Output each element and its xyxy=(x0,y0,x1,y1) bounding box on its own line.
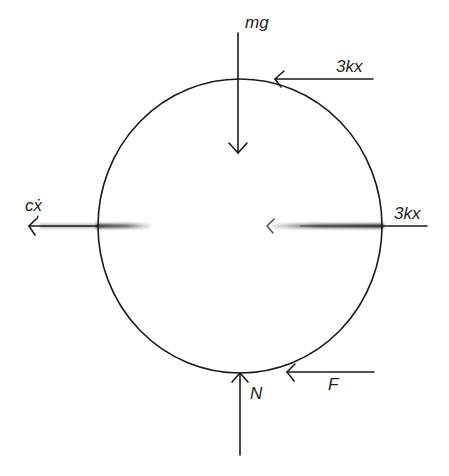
label-mg: mg xyxy=(245,14,269,31)
free-body-diagram xyxy=(0,0,449,476)
label-3kx-top: 3kx xyxy=(336,58,362,75)
label-3kx-center: 3kx xyxy=(394,205,420,222)
weight-force-arrow xyxy=(229,33,247,153)
arrowhead-left-icon xyxy=(29,219,36,235)
damping-force-arrow xyxy=(29,216,152,235)
normal-force-arrow xyxy=(232,373,248,455)
label-c-xdot: cẋ xyxy=(25,197,42,214)
label-N: N xyxy=(250,385,262,402)
label-F: F xyxy=(328,376,338,393)
